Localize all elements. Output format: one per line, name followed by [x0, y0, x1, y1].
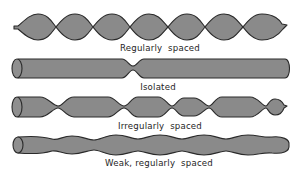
regularly-spaced-fiber [14, 14, 287, 40]
label-regularly-spaced: Regularly spaced [120, 44, 200, 53]
label-weak-regularly-spaced: Weak, regularly spaced [105, 159, 213, 168]
label-irregularly-spaced: Irregularly spaced [118, 122, 202, 131]
isolated-neck-fiber [12, 59, 290, 78]
weak-fiber-endcap [13, 137, 23, 153]
irregular-fiber-endcap [12, 97, 22, 117]
irregularly-spaced-fiber [12, 97, 287, 117]
label-isolated: Isolated [140, 83, 176, 92]
isolated-fiber-endcap [12, 59, 22, 78]
weak-regularly-spaced-fiber [13, 135, 289, 155]
